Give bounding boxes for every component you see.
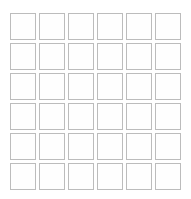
grid-cell[interactable] bbox=[155, 103, 181, 130]
grid-cell-label bbox=[11, 134, 35, 159]
grid-cell[interactable] bbox=[10, 163, 36, 190]
grid-cell-label bbox=[69, 164, 93, 189]
grid-cell-label bbox=[98, 164, 122, 189]
grid-cell[interactable] bbox=[126, 13, 152, 40]
grid-cell-label bbox=[127, 74, 151, 99]
grid-cell-label bbox=[40, 74, 64, 99]
grid-cell[interactable] bbox=[39, 163, 65, 190]
grid-cell-label bbox=[40, 14, 64, 39]
grid-cell[interactable] bbox=[68, 103, 94, 130]
grid-cell[interactable] bbox=[10, 13, 36, 40]
grid-cell[interactable] bbox=[39, 103, 65, 130]
grid-cell-label bbox=[127, 164, 151, 189]
grid-cell[interactable] bbox=[126, 73, 152, 100]
grid-cell[interactable] bbox=[10, 103, 36, 130]
grid-cell-label bbox=[98, 14, 122, 39]
grid-cell[interactable] bbox=[97, 163, 123, 190]
grid-cell[interactable] bbox=[97, 73, 123, 100]
grid-cell-label bbox=[40, 44, 64, 69]
grid-cell-label bbox=[127, 104, 151, 129]
grid-cell-label bbox=[127, 134, 151, 159]
grid-cell[interactable] bbox=[97, 13, 123, 40]
grid-cell-label bbox=[98, 134, 122, 159]
grid-cell[interactable] bbox=[126, 43, 152, 70]
grid-cell[interactable] bbox=[126, 133, 152, 160]
grid-cell-label bbox=[156, 74, 180, 99]
grid-cell-label bbox=[40, 134, 64, 159]
grid-cell[interactable] bbox=[10, 43, 36, 70]
grid-cell-label bbox=[156, 14, 180, 39]
grid-cell[interactable] bbox=[155, 73, 181, 100]
grid-cell-label bbox=[156, 134, 180, 159]
grid-cell-label bbox=[11, 104, 35, 129]
grid-cell[interactable] bbox=[97, 43, 123, 70]
grid-cell-label bbox=[127, 44, 151, 69]
grid-cell-label bbox=[69, 14, 93, 39]
grid-cell[interactable] bbox=[39, 133, 65, 160]
grid-cell[interactable] bbox=[97, 103, 123, 130]
grid-cell-label bbox=[11, 44, 35, 69]
grid-cell-label bbox=[98, 74, 122, 99]
square-grid bbox=[10, 13, 181, 196]
grid-cell-label bbox=[69, 74, 93, 99]
grid-cell-label bbox=[156, 164, 180, 189]
grid-cell[interactable] bbox=[126, 163, 152, 190]
grid-panel bbox=[10, 13, 181, 190]
grid-cell[interactable] bbox=[155, 43, 181, 70]
grid-cell[interactable] bbox=[68, 133, 94, 160]
grid-cell-label bbox=[11, 74, 35, 99]
grid-cell-label bbox=[98, 44, 122, 69]
grid-cell[interactable] bbox=[155, 133, 181, 160]
grid-cell-label bbox=[98, 104, 122, 129]
grid-cell-label bbox=[127, 14, 151, 39]
grid-cell[interactable] bbox=[68, 13, 94, 40]
grid-cell-label bbox=[11, 14, 35, 39]
grid-cell-label bbox=[40, 164, 64, 189]
grid-cell-label bbox=[156, 104, 180, 129]
grid-cell[interactable] bbox=[39, 73, 65, 100]
grid-cell[interactable] bbox=[39, 43, 65, 70]
grid-cell-label bbox=[156, 44, 180, 69]
grid-cell[interactable] bbox=[68, 163, 94, 190]
grid-cell-label bbox=[69, 44, 93, 69]
grid-cell[interactable] bbox=[68, 73, 94, 100]
grid-cell[interactable] bbox=[97, 133, 123, 160]
grid-cell[interactable] bbox=[10, 133, 36, 160]
grid-cell[interactable] bbox=[39, 13, 65, 40]
grid-cell-label bbox=[69, 104, 93, 129]
grid-cell[interactable] bbox=[68, 43, 94, 70]
grid-cell-label bbox=[11, 164, 35, 189]
grid-cell[interactable] bbox=[155, 163, 181, 190]
grid-cell-label bbox=[69, 134, 93, 159]
grid-cell[interactable] bbox=[155, 13, 181, 40]
grid-cell[interactable] bbox=[126, 103, 152, 130]
grid-cell[interactable] bbox=[10, 73, 36, 100]
grid-cell-label bbox=[40, 104, 64, 129]
